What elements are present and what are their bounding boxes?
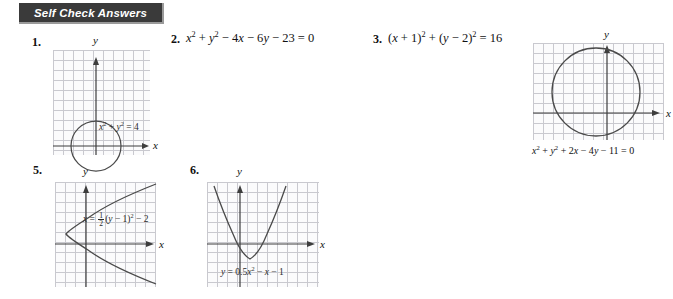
problem-number-2: 2.: [171, 33, 180, 45]
graph-4-x-arrow: [652, 110, 660, 116]
problem-number-6: 6.: [190, 164, 199, 176]
problem-number-1: 1.: [32, 36, 41, 48]
graph-5-parabola: y x x = 12(y − 1)2 − 2: [55, 182, 156, 287]
problem-3-equation: (x + 1)2 + (y − 2)2 = 16: [388, 32, 502, 45]
banner-title: Self Check Answers: [34, 7, 147, 19]
graph-4-svg: [533, 43, 664, 140]
self-check-answers-banner: Self Check Answers: [19, 3, 164, 24]
graph-1-y-arrow: [93, 57, 99, 65]
graph-6-y-label: y: [237, 166, 242, 177]
graph-6-equation-label: y = 0.5x2 − x − 1: [221, 268, 284, 278]
graph-1-x-arrow: [142, 143, 149, 149]
graph-4-y-label: y: [604, 29, 609, 40]
graph-6-x-label: x: [320, 239, 325, 250]
graph-1-y-label: y: [93, 35, 98, 46]
graph-4-circle-curve: [552, 48, 640, 136]
graph-1-circle: y x x2 + y2 = 4: [53, 50, 150, 155]
graph-1-svg: [53, 50, 150, 155]
graph-5-parabola-curve: [66, 184, 156, 284]
graph-6-parabola: y x y = 0.5x2 − x − 1: [207, 182, 319, 287]
self-check-answers-page: Self Check Answers 1. y x x2 + y2 = 4 2.…: [0, 0, 673, 299]
graph-5-x-label: x: [159, 239, 164, 250]
graph-4-x-label: x: [666, 108, 671, 119]
graph-1-x-label: x: [153, 140, 158, 151]
problem-2-equation: x2 + y2 − 4x − 6y − 23 = 0: [186, 32, 314, 45]
graph-6-y-arrow: [237, 185, 243, 193]
graph-4-circle: y x: [533, 43, 664, 140]
problem-number-5: 5.: [33, 164, 42, 176]
graph-5-svg: [55, 182, 156, 287]
graph-1-equation-label: x2 + y2 = 4: [99, 123, 139, 133]
problem-number-3: 3.: [373, 33, 382, 45]
graph-6-parabola-curve: [214, 186, 286, 259]
graph-5-equation-label: x = 12(y − 1)2 − 2: [83, 212, 149, 228]
graph-5-y-label: y: [83, 166, 88, 177]
graph-4-equation-caption: x2 + y2 + 2x − 4y − 11 = 0: [532, 146, 634, 156]
graph-6-x-arrow: [307, 241, 315, 247]
graph-5-x-arrow: [146, 241, 154, 247]
graph-5-y-arrow: [83, 185, 89, 193]
